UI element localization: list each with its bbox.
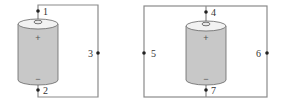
right-circuit: + − 4 5 6 7 — [142, 6, 269, 97]
left-circuit: + − 1 2 3 — [18, 5, 100, 97]
negative-sign: − — [203, 74, 208, 84]
node-6-dot — [265, 51, 269, 55]
positive-sign: + — [35, 33, 40, 43]
battery-terminal-nub — [34, 20, 42, 24]
node-1-label: 1 — [43, 6, 48, 17]
node-6-label: 6 — [256, 48, 261, 59]
node-7-dot — [204, 88, 208, 92]
battery-left: + − — [18, 19, 58, 85]
positive-sign: + — [203, 33, 208, 43]
battery-right: + − — [186, 21, 226, 85]
negative-sign: − — [35, 74, 40, 84]
node-3-label: 3 — [88, 48, 93, 59]
node-1-dot — [36, 9, 40, 13]
battery-terminal-nub — [202, 22, 210, 26]
node-5-dot — [142, 51, 146, 55]
node-5-label: 5 — [151, 48, 156, 59]
node-7-label: 7 — [211, 85, 216, 96]
node-2-dot — [36, 88, 40, 92]
node-3-dot — [96, 51, 100, 55]
node-4-dot — [204, 10, 208, 14]
circuit-diagram: + − 1 2 3 + − 4 5 6 7 — [0, 0, 283, 108]
node-4-label: 4 — [211, 7, 216, 18]
node-2-label: 2 — [43, 85, 48, 96]
